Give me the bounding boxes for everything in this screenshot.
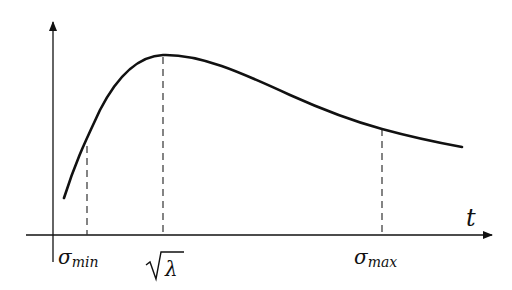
sigma-min-label: σmin [58, 245, 98, 270]
x-axis-label: t [466, 204, 476, 232]
svg-text:λ: λ [164, 257, 178, 281]
function-plot: t σmin λ σmax [0, 0, 512, 290]
sigma-max-label: σmax [354, 245, 397, 270]
sqrt-lambda-label: λ [146, 252, 184, 281]
curve [64, 55, 462, 198]
diagram-canvas: t σmin λ σmax [0, 0, 512, 290]
